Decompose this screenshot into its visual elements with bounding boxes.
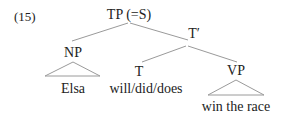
leaf-vp: win the race [202, 100, 270, 114]
node-np: NP [64, 46, 82, 60]
node-tp: TP (=S) [107, 8, 151, 22]
node-tbar: T′ [188, 27, 200, 41]
leaf-t: will/did/does [109, 82, 182, 96]
node-vp: VP [227, 64, 245, 78]
leaf-np: Elsa [61, 82, 85, 96]
node-t: T [135, 65, 144, 79]
syntax-tree-diagram: (15) TP (=S) T′ NP T VP Elsa will/did/do… [0, 0, 282, 119]
